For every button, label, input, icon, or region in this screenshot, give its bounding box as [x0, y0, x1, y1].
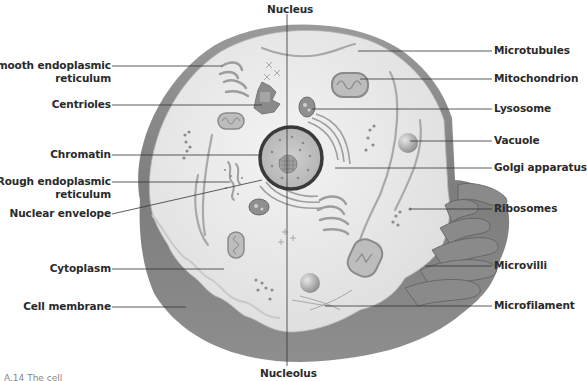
label-vacuole: Vacuole — [494, 134, 540, 147]
label-centrioles: Centrioles — [52, 98, 111, 111]
label-cytoplasm: Cytoplasm — [50, 262, 111, 275]
lysosome-lower — [249, 199, 269, 215]
label-smooth-er: Smooth endoplasmic reticulum — [0, 59, 111, 85]
label-nucleolus: Nucleolus — [260, 367, 317, 380]
nucleus — [260, 127, 322, 189]
nucleolus — [279, 155, 297, 173]
label-cell-membrane: Cell membrane — [23, 300, 111, 313]
lysosome-upper — [299, 97, 315, 117]
mitochondrion-upper-right — [332, 73, 368, 97]
label-rough-er: Rough endoplasmic reticulum — [0, 175, 111, 201]
label-microfilament: Microfilament — [494, 299, 575, 312]
mitochondrion-left — [218, 113, 244, 129]
label-mitochondrion: Mitochondrion — [494, 72, 578, 85]
label-microvilli: Microvilli — [494, 259, 547, 272]
label-microtubules: Microtubules — [494, 44, 570, 57]
figure-caption: A.14 The cell — [4, 373, 62, 381]
label-lysosome: Lysosome — [494, 102, 551, 115]
label-chromatin: Chromatin — [50, 148, 111, 161]
label-nucleus: Nucleus — [267, 3, 313, 16]
label-nuclear-envelope: Nuclear envelope — [9, 207, 111, 220]
label-golgi-apparatus: Golgi apparatus — [494, 161, 587, 174]
mitochondrion-lower-left — [228, 232, 244, 258]
label-ribosomes: Ribosomes — [494, 202, 557, 215]
vacuole-lower — [300, 273, 320, 293]
vacuole-upper — [398, 133, 418, 153]
